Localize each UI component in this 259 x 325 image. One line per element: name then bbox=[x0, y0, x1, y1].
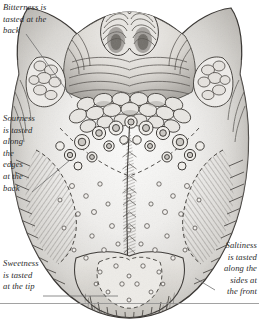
figure-canvas: Bitterness is tasted at the back Sournes… bbox=[0, 0, 259, 325]
label-sourness: Sourness is tasted along the edges at th… bbox=[3, 113, 35, 194]
tongue-illustration bbox=[0, 0, 259, 325]
label-saltiness: Saltiness is tasted along the sides at t… bbox=[224, 240, 257, 298]
label-bitterness: Bitterness is tasted at the back bbox=[3, 2, 47, 37]
label-sweetness: Sweetness is tasted at the tip bbox=[3, 258, 39, 293]
